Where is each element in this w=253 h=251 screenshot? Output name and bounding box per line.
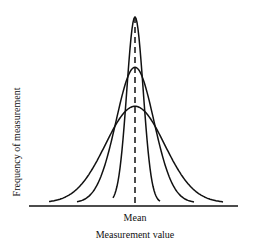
narrow-curve: [113, 17, 160, 201]
chart: Frequency of measurement Mean Measuremen…: [0, 0, 253, 251]
x-tick-mean: Mean: [124, 212, 147, 223]
wide-curve: [49, 106, 223, 202]
y-axis-label: Frequency of measurement: [11, 88, 22, 197]
x-axis-label: Measurement value: [96, 229, 175, 240]
